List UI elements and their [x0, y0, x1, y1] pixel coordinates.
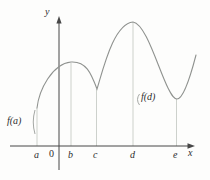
tick-label-e: e [173, 150, 177, 160]
annotation-f-of-d: f(d) [141, 92, 155, 102]
tick-label-d: d [130, 150, 135, 160]
tick-label-c: c [93, 150, 97, 160]
f-of-a-brace-icon [33, 110, 35, 134]
function-graph-figure: y x 0 a b c d e f(a) f(d) [0, 0, 210, 180]
y-axis-label: y [45, 7, 49, 17]
function-curve [37, 22, 196, 108]
function-graph-canvas [0, 0, 210, 180]
tick-label-a: a [34, 150, 39, 160]
annotation-f-of-a: f(a) [7, 116, 21, 126]
y-axis-arrow-icon [56, 16, 61, 24]
origin-label: 0 [49, 149, 54, 159]
x-axis-label: x [188, 148, 192, 158]
f-of-d-brace-icon [138, 94, 140, 105]
tick-label-b: b [68, 150, 73, 160]
